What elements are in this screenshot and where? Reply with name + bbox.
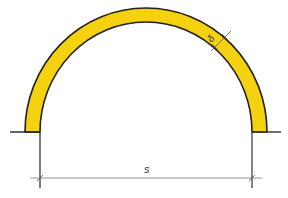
span-label: s <box>144 163 150 175</box>
arch-ring <box>25 8 267 132</box>
